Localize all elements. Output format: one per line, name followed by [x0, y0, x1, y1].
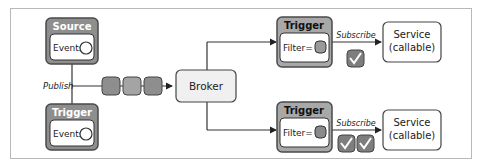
svg-text:Filter=: Filter=	[283, 43, 313, 53]
check-icon	[357, 135, 374, 152]
svg-text:Filter=: Filter=	[283, 128, 313, 138]
source-title: Source	[53, 21, 92, 32]
filter-token-icon	[315, 126, 326, 138]
event-circle-icon	[80, 128, 92, 140]
filter-token-icon	[315, 41, 326, 53]
source-box: Source Events	[46, 18, 98, 64]
event-circle-icon	[80, 42, 92, 54]
svg-text:(callable): (callable)	[389, 42, 435, 53]
event-square-icon	[102, 77, 120, 95]
service-box-bottom: Service (callable)	[383, 110, 441, 150]
event-square-icon	[144, 77, 162, 95]
trigger-box-bottom: Trigger Filter=	[277, 102, 332, 152]
check-icon	[347, 50, 364, 67]
left-trigger-title: Trigger	[52, 107, 92, 118]
event-queue	[102, 77, 162, 95]
svg-text:Trigger: Trigger	[284, 105, 324, 116]
svg-text:(callable): (callable)	[389, 130, 435, 141]
subscribe-label-bottom: Subscribe	[336, 119, 375, 128]
publish-label: Publish	[43, 81, 73, 91]
subscribe-label-top: Subscribe	[336, 31, 375, 40]
source-events-label: Events	[53, 43, 84, 53]
svg-text:Trigger: Trigger	[284, 20, 324, 31]
broker-box: Broker	[176, 70, 236, 102]
left-trigger-box: Trigger Events	[46, 104, 98, 150]
check-icon	[338, 135, 355, 152]
broker-label: Broker	[189, 80, 224, 92]
svg-text:Service: Service	[394, 29, 431, 40]
trigger-box-top: Trigger Filter=	[277, 17, 332, 67]
svg-text:Service: Service	[394, 117, 431, 128]
event-square-icon	[123, 77, 141, 95]
event-flow-diagram: Source Events Trigger Events Publish Bro…	[0, 0, 484, 168]
left-trigger-events-label: Events	[53, 129, 84, 139]
service-box-top: Service (callable)	[383, 22, 441, 62]
